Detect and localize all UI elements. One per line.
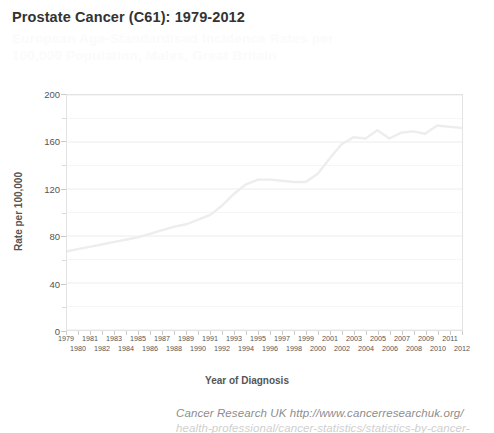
x-tick-label: 1980 (70, 344, 86, 353)
gridlines (67, 95, 462, 330)
x-tick-label: 1993 (226, 334, 242, 343)
chart-subtitle: European Age-Standardised Incidence Rate… (12, 31, 342, 64)
x-axis-labels: 1979198019811982198319841985198619871988… (66, 334, 463, 358)
chart-container: Prostate Cancer (C61): 1979-2012 Europea… (0, 0, 494, 433)
y-axis-ticks (0, 94, 66, 331)
x-tick-label: 1984 (118, 344, 134, 353)
x-tick-label: 1995 (250, 334, 266, 343)
x-tick-label: 1985 (130, 334, 146, 343)
plot-area (66, 94, 463, 331)
footer-line-1: Cancer Research UK http://www.cancerrese… (176, 406, 494, 421)
x-tick-label: 2007 (394, 334, 410, 343)
x-tick-label: 1981 (82, 334, 98, 343)
x-tick-label: 1998 (286, 344, 302, 353)
x-tick-label: 2011 (442, 334, 457, 343)
x-tick-label: 2008 (406, 344, 422, 353)
data-series-line (67, 126, 461, 252)
x-tick-label: 1982 (94, 344, 110, 353)
x-tick-label: 1999 (298, 334, 314, 343)
x-axis-title: Year of Diagnosis (0, 375, 494, 386)
x-tick-label: 1990 (190, 344, 206, 353)
x-tick-label: 2005 (370, 334, 386, 343)
x-tick-label: 1986 (142, 344, 158, 353)
x-tick-label: 2009 (418, 334, 434, 343)
x-tick-label: 1987 (154, 334, 170, 343)
x-tick-label: 2006 (382, 344, 398, 353)
page-title: Prostate Cancer (C61): 1979-2012 (12, 9, 245, 25)
footer-line-2: health-professional/cancer-statistics/st… (176, 421, 494, 433)
x-tick-label: 1989 (178, 334, 194, 343)
x-tick-label: 2002 (334, 344, 350, 353)
x-tick-label: 1994 (238, 344, 254, 353)
chart-plot-svg (67, 95, 462, 330)
x-tick-label: 1983 (106, 334, 122, 343)
x-tick-label: 1992 (214, 344, 230, 353)
x-tick-label: 2001 (322, 334, 338, 343)
x-tick-label: 1997 (274, 334, 290, 343)
x-tick-label: 1988 (166, 344, 182, 353)
footer-credit: Cancer Research UK http://www.cancerrese… (176, 406, 494, 433)
x-tick-label: 1979 (58, 334, 74, 343)
x-tick-label: 2003 (346, 334, 362, 343)
x-tick-label: 2010 (430, 344, 446, 353)
x-tick-label: 2012 (454, 344, 470, 353)
x-tick-label: 2000 (310, 344, 326, 353)
x-tick-label: 2004 (358, 344, 374, 353)
x-tick-label: 1991 (202, 334, 218, 343)
x-tick-label: 1996 (262, 344, 278, 353)
